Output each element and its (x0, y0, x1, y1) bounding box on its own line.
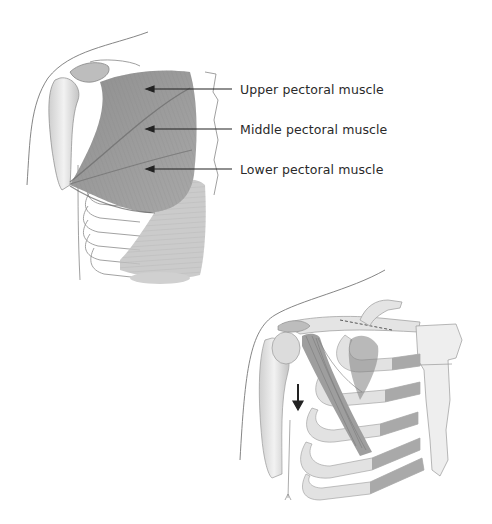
arrow-head-icon (146, 126, 154, 132)
arrow-head-icon (146, 166, 154, 172)
label-upper-pectoral: Upper pectoral muscle (240, 82, 384, 97)
label-middle-pectoral: Middle pectoral muscle (240, 122, 387, 137)
label-arrows (0, 0, 492, 524)
arrow-head-icon (146, 86, 154, 92)
down-arrow-icon (293, 401, 303, 410)
label-lower-pectoral: Lower pectoral muscle (240, 162, 383, 177)
anatomy-figure: Upper pectoral muscle Middle pectoral mu… (0, 0, 492, 524)
